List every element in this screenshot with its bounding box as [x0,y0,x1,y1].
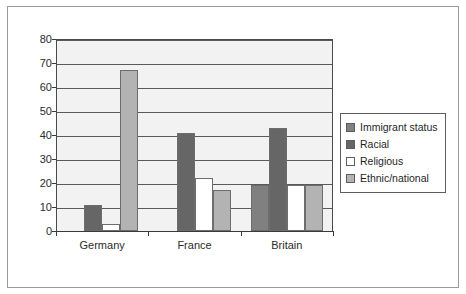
legend-item-immigrant-status[interactable]: Immigrant status [346,119,440,136]
legend-item-label: Racial [360,139,389,150]
legend-swatch-icon [346,123,355,132]
bars-layer [56,39,333,231]
legend-item-label: Ethnic/national [360,173,429,184]
chart-legend: Immigrant statusRacialReligiousEthnic/na… [340,113,446,193]
x-axis-line [56,231,333,232]
bar-germany-ethnic-national [120,70,138,231]
legend-item-racial[interactable]: Racial [346,136,440,153]
figure-frame: 01020304050607080 GermanyFranceBritain I… [7,6,459,288]
x-axis-label-germany: Germany [80,239,125,251]
y-axis-tick-label: 30 [40,154,52,165]
x-axis-tick-mark [333,231,334,236]
legend-item-religious[interactable]: Religious [346,153,440,170]
bar-germany-religious [102,224,120,231]
y-axis-tick-label: 60 [40,82,52,93]
y-axis-tick-labels: 01020304050607080 [22,39,52,231]
bar-france-racial [177,133,195,231]
legend-item-ethnic-national[interactable]: Ethnic/national [346,170,440,187]
y-axis-tick-label: 80 [40,34,52,45]
bar-germany-racial [84,205,102,231]
bar-france-religious [195,178,213,231]
bar-france-ethnic-national [213,190,231,231]
x-axis-label-france: France [177,239,211,251]
y-axis-tick-label: 40 [40,130,52,141]
x-axis-tick-mark [241,231,242,236]
bar-britain-racial [269,128,287,231]
legend-swatch-icon [346,157,355,166]
x-axis-tick-mark [56,231,57,236]
bar-britain-immigrant-status [251,185,269,231]
y-axis-tick-label: 10 [40,202,52,213]
y-axis-tick-label: 70 [40,58,52,69]
bar-britain-ethnic-national [305,185,323,231]
bar-britain-religious [287,185,305,231]
x-axis-label-britain: Britain [271,239,302,251]
chart-figure: 01020304050607080 GermanyFranceBritain I… [0,0,466,294]
y-axis-tick-label: 20 [40,178,52,189]
legend-item-label: Religious [360,156,403,167]
legend-item-label: Immigrant status [360,122,438,133]
y-axis-tick-label: 50 [40,106,52,117]
legend-swatch-icon [346,140,355,149]
x-axis-tick-mark [148,231,149,236]
legend-swatch-icon [346,174,355,183]
